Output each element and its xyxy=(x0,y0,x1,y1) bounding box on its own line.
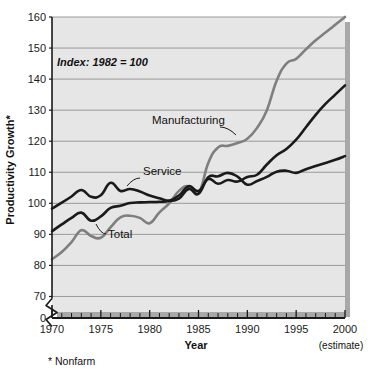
x-tick-2000: 2000 xyxy=(333,323,357,335)
estimate-note: (estimate) xyxy=(319,340,363,351)
series-label-total: Total xyxy=(108,228,132,240)
x-tick-1990: 1990 xyxy=(235,323,259,335)
y-tick-110: 110 xyxy=(28,166,46,178)
y-tick-130: 130 xyxy=(28,104,46,116)
x-tick-1975: 1975 xyxy=(89,323,113,335)
x-axis-title: Year xyxy=(184,339,208,351)
y-tick-160: 160 xyxy=(28,11,46,23)
index-annotation: Index: 1982 = 100 xyxy=(57,56,149,68)
x-axis-tick-labels: 1970197519801985199019952000 xyxy=(40,323,357,335)
y-tick-70: 70 xyxy=(34,290,46,302)
series-label-manufacturing: Manufacturing xyxy=(152,114,225,126)
y-tick-140: 140 xyxy=(28,73,46,85)
x-tick-1980: 1980 xyxy=(137,323,161,335)
x-tick-1970: 1970 xyxy=(40,323,64,335)
y-tick-90: 90 xyxy=(34,228,46,240)
y-axis-zero-label: 0 xyxy=(40,312,46,324)
y-axis-title: Productivity Growth* xyxy=(4,115,16,225)
y-tick-150: 150 xyxy=(28,42,46,54)
y-tick-120: 120 xyxy=(28,135,46,147)
productivity-growth-line-chart: 708090100110120130140150160 197019751980… xyxy=(0,0,377,372)
chart-figure: 708090100110120130140150160 197019751980… xyxy=(0,0,377,372)
x-tick-1985: 1985 xyxy=(186,323,210,335)
x-tick-1995: 1995 xyxy=(284,323,308,335)
series-label-service: Service xyxy=(143,165,181,177)
y-tick-100: 100 xyxy=(28,197,46,209)
y-tick-80: 80 xyxy=(34,259,46,271)
footnote-nonfarm: * Nonfarm xyxy=(48,355,96,367)
y-axis-tick-labels: 708090100110120130140150160 xyxy=(28,11,52,302)
